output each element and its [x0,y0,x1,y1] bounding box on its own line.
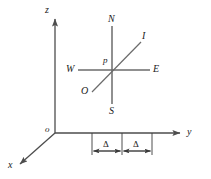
compass-axis-outer-inner [92,42,141,92]
compass-label-west: W [66,64,74,74]
axis-label-origin: o [45,125,50,134]
diagram-canvas [0,0,211,179]
axis-label-z: z [45,5,49,15]
delta-label-second: Δ [133,140,139,149]
axis-label-x: x [8,160,12,170]
compass-rose [78,26,150,104]
delta-measure-group [92,133,152,155]
delta-label-first: Δ [103,140,109,149]
compass-label-south: S [109,106,114,116]
coordinate-system-diagram: z y x o N S W E p I O Δ Δ [0,0,211,179]
compass-label-center-point: p [103,56,108,65]
compass-label-north: N [108,14,115,24]
axis-label-y: y [187,127,191,137]
compass-label-outer: O [81,86,88,96]
compass-label-inner: I [142,31,145,41]
compass-label-east: E [153,64,159,74]
axis-x [20,133,55,164]
